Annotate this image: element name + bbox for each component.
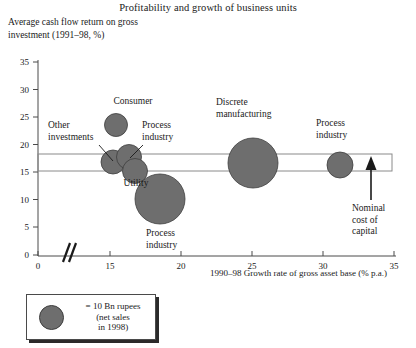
axis-break-icon xyxy=(62,243,77,262)
process-industry-right-label: Process industry xyxy=(316,118,368,141)
bubble-label-process-industry-mid: Process industry xyxy=(146,228,198,251)
nominal-cost-of-capital-label: Nominal cost of capital xyxy=(352,203,412,238)
process-industry-left-label: Process industry xyxy=(142,120,192,143)
x-axis-ticks xyxy=(38,251,394,256)
legend-bubble-icon xyxy=(39,305,64,330)
legend: = 10 Bn rupees (net sales in 1998) xyxy=(26,294,156,340)
y-tick-label: 15 xyxy=(20,167,30,177)
y-tick-label: 0 xyxy=(25,250,30,260)
y-tick-label: 10 xyxy=(20,195,30,205)
bubble-label-discrete-manufacturing: Discrete manufacturing xyxy=(216,97,292,120)
bubble-label-utility: Utility xyxy=(110,178,162,190)
y-tick-label: 30 xyxy=(20,85,30,95)
legend-line-3: in 1998) xyxy=(71,322,155,333)
bubble-label-consumer: Consumer xyxy=(100,96,166,108)
legend-line-2: (net sales xyxy=(71,312,155,323)
y-tick-label: 5 xyxy=(25,222,30,232)
x-tick-label: 15 xyxy=(106,261,116,271)
x-tick-label: 20 xyxy=(177,261,187,271)
other-investments-line1: Other investments xyxy=(48,120,110,143)
bubble-discrete-manufacturing xyxy=(228,138,278,188)
legend-line-1: = 10 Bn rupees xyxy=(71,301,155,312)
chart-page: Profitability and growth of business uni… xyxy=(0,0,416,348)
discrete-manufacturing-label: Discrete manufacturing xyxy=(216,97,292,120)
nominal-line-1: Nominal xyxy=(352,203,412,215)
bubble-label-process-industry-left: Process industry xyxy=(142,120,192,143)
y-tick-label: 35 xyxy=(20,57,30,67)
process-industry-mid-label: Process industry xyxy=(146,228,198,251)
legend-text: = 10 Bn rupees (net sales in 1998) xyxy=(71,301,155,333)
y-tick-label: 25 xyxy=(20,112,30,122)
x-tick-label: 0 xyxy=(36,261,41,271)
nominal-cost-of-capital-arrow xyxy=(366,156,377,200)
y-axis-ticks xyxy=(33,62,38,255)
bubble-label-process-industry-right: Process industry xyxy=(316,118,368,141)
y-tick-label: 20 xyxy=(20,140,30,150)
y-axis-tick-labels: 35 30 25 20 15 10 5 0 xyxy=(20,57,30,260)
nominal-line-2: cost of xyxy=(352,215,412,227)
nominal-line-3: capital xyxy=(352,226,412,238)
bubble-label-other-investments: Other investments xyxy=(48,120,110,143)
x-axis-label: 1990–98 Growth rate of gross asset base … xyxy=(210,268,416,278)
bubble-process-industry-right xyxy=(327,152,353,178)
